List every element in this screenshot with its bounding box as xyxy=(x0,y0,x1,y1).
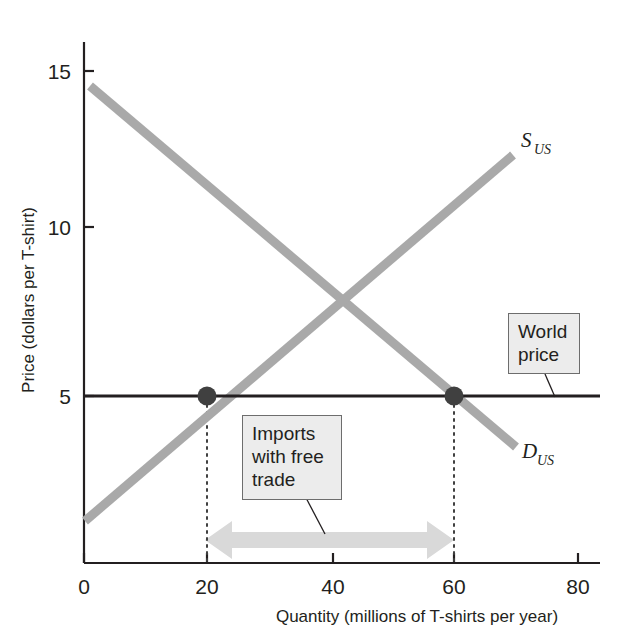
supply-curve-label-group: S US xyxy=(521,128,551,157)
x-tick-label-40: 40 xyxy=(321,575,344,598)
x-axis-title: Quantity (millions of T-shirts per year) xyxy=(276,607,558,626)
imports-callout: Imports with free trade xyxy=(242,415,342,500)
trade-diagram-figure: 15 10 5 0 20 40 60 80 Price (dollars per… xyxy=(0,0,621,628)
world-price-callout-line1: World xyxy=(518,320,570,343)
y-tick-label-10: 10 xyxy=(48,216,71,239)
x-tick-label-60: 60 xyxy=(442,575,465,598)
demand-curve-label-subscript: US xyxy=(537,453,554,468)
imports-leader-line xyxy=(304,494,325,534)
x-tick-label-20: 20 xyxy=(195,575,218,598)
y-tick-label-15: 15 xyxy=(48,60,71,83)
world-price-callout: World price xyxy=(508,313,580,374)
imports-callout-line1: Imports xyxy=(252,422,332,445)
world-price-leader-line xyxy=(545,374,555,397)
y-tick-label-5: 5 xyxy=(59,385,71,408)
x-tick-label-80: 80 xyxy=(566,575,589,598)
demand-quantity-point xyxy=(445,387,464,406)
imports-callout-line2: with free xyxy=(252,445,332,468)
supply-curve-label-subscript: US xyxy=(534,142,551,157)
demand-curve-label-group: D US xyxy=(521,439,554,468)
imports-span-arrow xyxy=(205,521,454,559)
supply-curve-label: S xyxy=(521,128,532,152)
y-axis-title: Price (dollars per T-shirt) xyxy=(19,207,38,393)
world-price-callout-line2: price xyxy=(518,343,570,366)
x-tick-label-0: 0 xyxy=(78,575,90,598)
supply-quantity-point xyxy=(198,387,217,406)
imports-callout-line3: trade xyxy=(252,468,332,491)
demand-curve-label: D xyxy=(521,439,537,463)
